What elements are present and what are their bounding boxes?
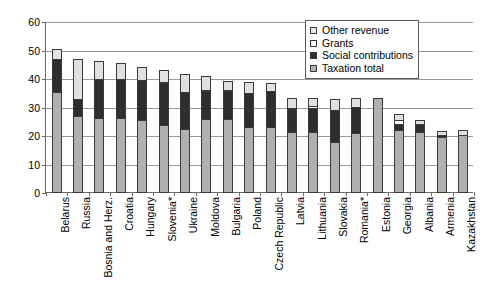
- bar-slovakia[interactable]: [330, 99, 340, 192]
- bar-armenia[interactable]: [437, 131, 447, 192]
- legend-swatch-other-revenue-icon: [310, 27, 317, 34]
- x-axis-label-latvia: Latvia: [295, 197, 306, 225]
- bar-kazakhstan[interactable]: [458, 130, 468, 192]
- x-tick-mark: [303, 192, 304, 196]
- legend-swatch-taxation-total-icon: [310, 65, 317, 72]
- bar-segment-social: [201, 91, 211, 120]
- x-axis-label-text: Bulgaria: [231, 197, 242, 236]
- bar-bulgaria[interactable]: [223, 81, 233, 192]
- bar-segment-tax: [223, 119, 233, 193]
- legend-swatch-social-contributions-icon: [310, 52, 317, 59]
- bar-romania[interactable]: [351, 98, 361, 192]
- bar-moldova[interactable]: [201, 76, 211, 192]
- bar-segment-tax: [159, 125, 169, 193]
- bar-segment-tax: [351, 133, 361, 193]
- bar-segment-other: [94, 61, 104, 80]
- x-tick-mark: [281, 192, 282, 196]
- bar-segment-tax: [180, 129, 190, 193]
- bar-segment-social: [308, 108, 318, 133]
- bar-croatia[interactable]: [116, 63, 126, 192]
- y-tick-label-20: 20: [28, 131, 40, 142]
- x-tick-mark: [410, 192, 411, 196]
- bar-slot: [46, 22, 67, 192]
- x-tick-mark: [367, 192, 368, 196]
- x-axis-label-text: Russia: [81, 197, 92, 229]
- x-tick-mark: [67, 192, 68, 196]
- bar-segment-social: [351, 107, 361, 135]
- bar-czech-republic[interactable]: [266, 83, 276, 192]
- legend-item-other-revenue: Other revenue: [310, 25, 413, 37]
- bar-segment-social: [116, 79, 126, 119]
- bar-albania[interactable]: [415, 120, 425, 192]
- x-axis-label-romania: Romania*: [359, 197, 370, 243]
- bar-slovenia[interactable]: [159, 70, 169, 192]
- legend-label-grants: Grants: [322, 38, 354, 49]
- x-tick-mark: [153, 192, 154, 196]
- bar-segment-tax: [437, 137, 447, 193]
- legend-label-taxation-total: Taxation total: [322, 63, 384, 74]
- bar-segment-social: [266, 91, 276, 128]
- x-axis-label-text: Latvia: [295, 197, 306, 225]
- bar-segment-social: [52, 59, 62, 93]
- bar-segment-other: [180, 74, 190, 93]
- bar-bosnia-and-herz[interactable]: [94, 61, 104, 192]
- x-axis-label-albania: Albania: [424, 197, 435, 232]
- bar-slot: [239, 22, 260, 192]
- x-axis-label-text: Lithuania: [317, 197, 328, 240]
- x-axis-label-belarus: Belarus: [60, 197, 71, 233]
- bar-segment-tax: [201, 119, 211, 193]
- x-axis-label-russia: Russia: [81, 197, 92, 229]
- x-axis-label-text: Albania: [424, 197, 435, 232]
- x-axis-label-text: Estonia: [381, 197, 392, 232]
- x-axis-label-text: Bosnia and Herz.: [103, 197, 114, 278]
- bar-segment-social: [223, 91, 233, 120]
- bar-slot: [196, 22, 217, 192]
- x-tick-mark: [346, 192, 347, 196]
- x-axis-label-ukraine: Ukraine: [188, 197, 199, 233]
- bar-slot: [281, 22, 302, 192]
- bar-russia[interactable]: [73, 59, 83, 192]
- bar-segment-social: [180, 92, 190, 130]
- bar-segment-other: [116, 63, 126, 80]
- bar-segment-other: [137, 67, 147, 81]
- bar-segment-tax: [308, 132, 318, 193]
- bar-estonia[interactable]: [373, 98, 383, 192]
- bar-segment-other: [73, 59, 83, 100]
- x-axis-label-text: Croatia: [124, 197, 135, 231]
- bar-slot: [153, 22, 174, 192]
- bar-segment-tax: [52, 92, 62, 193]
- bar-segment-tax: [94, 118, 104, 193]
- legend-item-grants: Grants: [310, 37, 413, 49]
- x-tick-mark: [132, 192, 133, 196]
- x-axis-label-poland: Poland: [252, 197, 263, 230]
- bar-slot: [89, 22, 110, 192]
- bar-slot: [132, 22, 153, 192]
- bar-belarus[interactable]: [52, 49, 62, 192]
- bar-poland[interactable]: [244, 82, 254, 192]
- x-axis-label-text: Ukraine: [188, 197, 199, 233]
- x-axis-label-text: Slovakia: [338, 197, 349, 237]
- x-axis-label-text: Slovenia*: [167, 197, 178, 241]
- y-tick-label-30: 30: [28, 102, 40, 113]
- bar-georgia[interactable]: [394, 114, 404, 192]
- bar-slot: [453, 22, 474, 192]
- x-tick-mark: [217, 192, 218, 196]
- x-tick-mark: [46, 192, 47, 196]
- x-tick-mark: [453, 192, 454, 196]
- bar-slot: [260, 22, 281, 192]
- x-axis-label-estonia: Estonia: [381, 197, 392, 232]
- bar-latvia[interactable]: [287, 98, 297, 192]
- bar-segment-social: [159, 83, 169, 126]
- x-tick-mark: [89, 192, 90, 196]
- bar-slot: [174, 22, 195, 192]
- bar-segment-social: [244, 93, 254, 128]
- x-axis-label-text: Hungary: [145, 197, 156, 237]
- bar-lithuania[interactable]: [308, 98, 318, 192]
- legend-swatch-grants-icon: [310, 40, 317, 47]
- bar-ukraine[interactable]: [180, 74, 190, 192]
- x-axis-label-kazakhstan: Kazakhstan: [466, 197, 477, 252]
- y-tick-label-60: 60: [28, 17, 40, 28]
- bar-hungary[interactable]: [137, 67, 147, 192]
- x-tick-mark: [431, 192, 432, 196]
- bar-slot: [217, 22, 238, 192]
